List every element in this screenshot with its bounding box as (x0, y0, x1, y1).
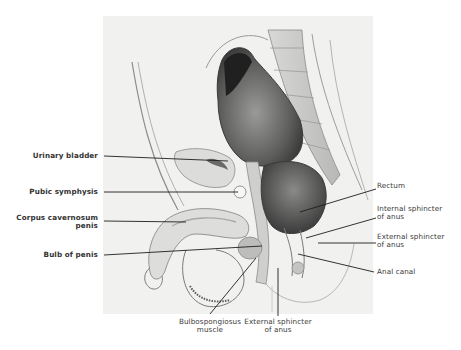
label-corpus-cavernosum-penis: Corpus cavernosum penis (16, 214, 98, 230)
leader-bulbospongiosus (210, 258, 256, 314)
label-bulb-of-penis: Bulb of penis (44, 251, 98, 259)
leader-anal-canal (298, 254, 374, 272)
perineum-outline (266, 244, 354, 302)
pelvis-sagittal-illustration (0, 0, 461, 350)
penis-shape (145, 209, 249, 289)
bulb-shape (238, 237, 262, 259)
label-bulbospongiosus-muscle: Bulbospongiosus muscle (172, 318, 248, 334)
label-urinary-bladder: Urinary bladder (33, 152, 98, 160)
label-external-sphincter-of-anus-right: External sphincter of anus (377, 233, 444, 249)
label-internal-sphincter-of-anus: Internal sphincter of anus (377, 205, 442, 221)
label-anal-canal: Anal canal (377, 268, 415, 276)
label-rectum: Rectum (377, 182, 405, 190)
label-external-sphincter-of-anus-bottom: External sphincter of anus (240, 318, 316, 334)
pubic-region (174, 149, 246, 198)
scrotum-testis (183, 250, 244, 307)
abdominal-wall (132, 62, 184, 210)
rectum-shape (261, 162, 326, 278)
label-pubic-symphysis: Pubic symphysis (29, 188, 98, 196)
